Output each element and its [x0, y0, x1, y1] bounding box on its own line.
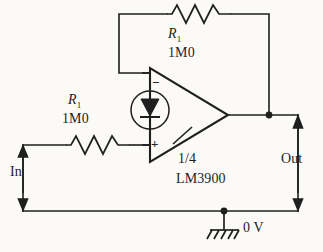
input-port-label: In: [10, 165, 22, 179]
amplifier-fraction-label: 1/4: [178, 152, 196, 166]
feedback-resistor-value: 1M0: [168, 46, 195, 60]
wire-feedback-right: [231, 14, 269, 115]
amplifier-part-number: LM3900: [176, 172, 226, 186]
input-resistor-value: 1M0: [62, 112, 89, 126]
feedback-resistor-designator: R1: [168, 27, 181, 44]
diode-icon: [141, 99, 159, 116]
current-mirror-icon: [131, 73, 169, 145]
earth-ground-hatched-icon: [207, 211, 239, 239]
input-resistor-symbol: [66, 136, 130, 154]
output-junction-dot: [266, 112, 273, 119]
amplifier-triangle: [150, 68, 228, 162]
ground-label: 0 V: [243, 221, 264, 235]
noninverting-input-marker: +: [151, 137, 159, 150]
feedback-resistor-symbol: [167, 5, 231, 23]
input-resistor-designator: R1: [68, 93, 81, 110]
inverting-input-marker: −: [152, 76, 160, 89]
wire-feedback-left: [119, 14, 167, 73]
output-port-label: Out: [281, 152, 302, 166]
circuit-diagram-figure: R1 1M0 R1 1M0 1/4 LM3900 − + In Out 0 V: [0, 0, 323, 252]
schematic-canvas: [0, 0, 323, 252]
